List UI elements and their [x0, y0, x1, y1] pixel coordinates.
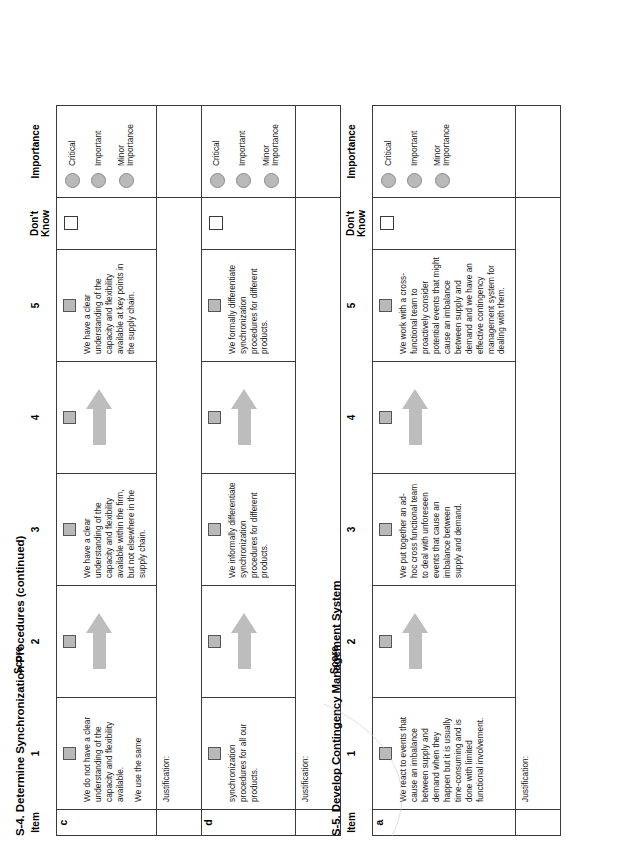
importance-cell: Critical Important Minor Importance	[57, 106, 157, 198]
section-s4: S-4. Determine Synchronization Procedure…	[14, 0, 341, 848]
importance-option-critical[interactable]: Critical	[65, 112, 80, 188]
score-checkbox-1[interactable]	[208, 747, 221, 760]
score-cell-3: We informally differentiate synchronizat…	[201, 474, 296, 586]
score-cell-2	[373, 586, 516, 698]
progression-arrow-right	[227, 593, 261, 690]
score-checkbox-5[interactable]	[379, 299, 392, 312]
radio-icon[interactable]	[435, 173, 450, 188]
score-description-5: We work with a cross-functional team to …	[398, 257, 507, 354]
radio-icon[interactable]	[407, 173, 422, 188]
score-description-1a: synchronization procedures for all our p…	[227, 705, 260, 802]
score-description-3: We put together an ad-hoc cross function…	[398, 481, 464, 578]
score-checkbox-1[interactable]	[379, 747, 392, 760]
score-checkbox-2[interactable]	[63, 635, 76, 648]
table-row: d synchronization procedures for all our…	[201, 106, 296, 836]
dont-know-cell	[373, 198, 516, 250]
score-checkbox-3[interactable]	[208, 523, 221, 536]
justification-row: Justification:	[516, 106, 561, 836]
importance-label: Important	[94, 131, 103, 166]
progression-arrow-right	[227, 369, 261, 466]
col-header-score-1: 1	[346, 698, 373, 810]
radio-icon[interactable]	[210, 173, 225, 188]
radio-icon[interactable]	[91, 173, 106, 188]
radio-icon[interactable]	[236, 173, 251, 188]
importance-label: Critical	[212, 140, 221, 166]
justification-importance-spacer	[156, 106, 201, 198]
col-header-score-4: 4	[346, 362, 373, 474]
score-checkbox-3[interactable]	[379, 523, 392, 536]
page-frame: S-4. Determine Synchronization Procedure…	[0, 0, 638, 848]
table-row: a We react to events that cause an imbal…	[373, 106, 516, 836]
col-header-item: Item	[346, 810, 373, 836]
score-description-5: We have a clear understanding of the cap…	[82, 257, 137, 354]
progression-arrow-right	[398, 593, 432, 690]
score-cell-5: We have a clear understanding of the cap…	[57, 250, 157, 362]
justification-item-spacer	[156, 810, 201, 836]
worksheet-sheet: S-4. Determine Synchronization Procedure…	[0, 0, 638, 848]
score-cell-1: synchronization procedures for all our p…	[201, 698, 296, 810]
justification-row: Justification:	[156, 106, 201, 836]
dont-know-cell	[57, 198, 157, 250]
justification-cell[interactable]: Justification:	[516, 198, 561, 810]
col-header-score-2: 2	[346, 586, 373, 698]
importance-option-minor[interactable]: Minor Importance	[262, 112, 281, 188]
score-checkbox-2[interactable]	[379, 635, 392, 648]
col-header-score-5: 5	[346, 250, 373, 362]
score-cell-4	[57, 362, 157, 474]
score-cell-2	[57, 586, 157, 698]
score-checkbox-1[interactable]	[63, 747, 76, 760]
radio-icon[interactable]	[119, 173, 134, 188]
justification-importance-spacer	[516, 106, 561, 198]
col-header-score-2: 2	[30, 586, 57, 698]
score-description-5: We formally differentiate synchronizatio…	[227, 257, 271, 354]
importance-cell: Critical Important Minor Importance	[201, 106, 296, 198]
dont-know-checkbox[interactable]	[380, 217, 394, 231]
score-checkbox-4[interactable]	[379, 411, 392, 424]
importance-option-critical[interactable]: Critical	[210, 112, 225, 188]
item-letter: a	[373, 810, 516, 836]
col-header-dont-know: Don't Know	[30, 198, 57, 250]
importance-option-minor[interactable]: Minor Importance	[433, 112, 452, 188]
dont-know-line-1: Don't	[346, 198, 357, 250]
table-row: c We do not have a clear understanding o…	[57, 106, 157, 836]
justification-cell[interactable]: Justification:	[156, 198, 201, 810]
importance-option-minor[interactable]: Minor Importance	[117, 112, 136, 188]
score-description-1a: We do not have a clear understanding of …	[82, 705, 126, 802]
score-checkbox-4[interactable]	[63, 411, 76, 424]
score-checkbox-2[interactable]	[208, 635, 221, 648]
item-letter: d	[201, 810, 296, 836]
progression-arrow-right	[82, 593, 116, 690]
importance-option-important[interactable]: Important	[236, 112, 251, 188]
score-description-3: We informally differentiate synchronizat…	[227, 481, 271, 578]
justification-label: Justification:	[296, 198, 310, 809]
radio-icon[interactable]	[264, 173, 279, 188]
importance-label-minor: Minor Importance	[117, 124, 136, 166]
importance-label: Critical	[384, 140, 393, 166]
importance-label-line-2: Importance	[270, 124, 280, 166]
importance-option-critical[interactable]: Critical	[381, 112, 396, 188]
progression-arrow-right	[398, 369, 432, 466]
radio-icon[interactable]	[65, 173, 80, 188]
score-description-1a: We react to events that cause an imbalan…	[398, 705, 486, 802]
score-cell-4	[373, 362, 516, 474]
dont-know-cell	[201, 198, 296, 250]
importance-label: Important	[410, 131, 419, 166]
col-header-dont-know: Don't Know	[346, 198, 373, 250]
col-header-score-5: 5	[30, 250, 57, 362]
dont-know-checkbox[interactable]	[209, 217, 223, 231]
justification-label: Justification:	[157, 198, 171, 809]
score-checkbox-5[interactable]	[208, 299, 221, 312]
score-description-3: We have a clear understanding of the cap…	[82, 481, 148, 578]
importance-option-important[interactable]: Important	[91, 112, 106, 188]
dont-know-checkbox[interactable]	[64, 217, 78, 231]
score-checkbox-3[interactable]	[63, 523, 76, 536]
col-header-item: Item	[30, 810, 57, 836]
score-cell-4	[201, 362, 296, 474]
importance-option-important[interactable]: Important	[407, 112, 422, 188]
score-checkbox-4[interactable]	[208, 411, 221, 424]
score-checkbox-5[interactable]	[63, 299, 76, 312]
score-cell-5: We formally differentiate synchronizatio…	[201, 250, 296, 362]
col-header-score-4: 4	[30, 362, 57, 474]
radio-icon[interactable]	[381, 173, 396, 188]
dont-know-line-2: Know	[41, 198, 52, 250]
